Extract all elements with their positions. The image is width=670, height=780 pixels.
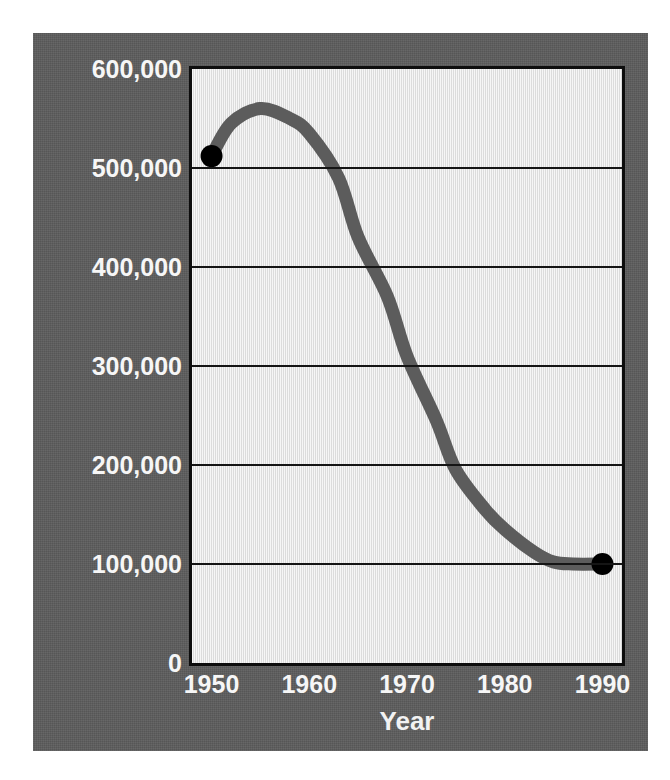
gridline [192,464,622,466]
gridline [192,365,622,367]
chart-figure: Resident patients at end of year 0100,00… [0,0,670,780]
x-axis-title: Year [189,706,625,737]
y-axis-tick-label: 500,000 [60,156,182,181]
x-axis-tick-labels: 19501960197019801990 [189,671,625,705]
y-axis-tick-label: 100,000 [60,552,182,577]
y-axis-tick-label: 200,000 [60,453,182,478]
y-axis-tick-label: 600,000 [60,57,182,82]
y-axis-tick-label: 400,000 [60,255,182,280]
gridline [192,563,622,565]
gridline [192,167,622,169]
series-endpoint-marker [201,145,223,167]
gridline [192,266,622,268]
series-line [212,109,603,565]
plot-area [189,66,625,666]
y-axis-title: Resident patients at end of year [22,0,60,98]
y-axis-tick-labels: 0100,000200,000300,000400,000500,000600,… [60,66,182,666]
plot-inner [192,69,622,663]
y-axis-tick-label: 300,000 [60,354,182,379]
x-axis-tick-label: 1990 [542,671,662,699]
